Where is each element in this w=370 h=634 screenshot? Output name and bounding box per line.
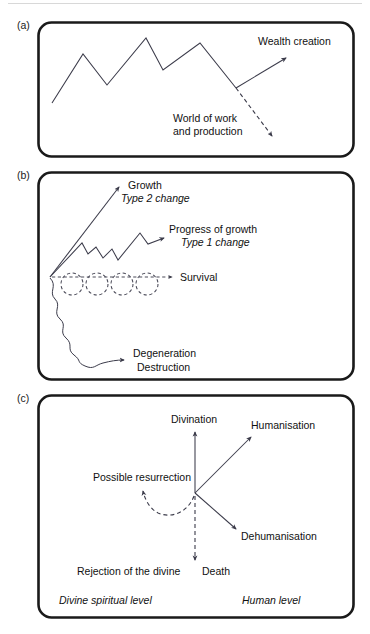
- label-type2-change: Type 2 change: [121, 192, 190, 204]
- panel-c-tag: (c): [17, 392, 29, 404]
- figure-page: (a) Wealth creation World of work and pr…: [0, 0, 370, 634]
- label-survival: Survival: [180, 271, 217, 283]
- label-human-level: Human level: [242, 594, 301, 606]
- panel-a: (a) Wealth creation World of work and pr…: [17, 19, 354, 157]
- label-progress-of-growth: Progress of growth: [169, 223, 257, 235]
- label-death: Death: [202, 565, 230, 577]
- figure-canvas: (a) Wealth creation World of work and pr…: [0, 0, 370, 634]
- label-wealth-creation: Wealth creation: [258, 35, 331, 47]
- label-world-of-work-line2: and production: [173, 125, 243, 137]
- label-divination: Divination: [171, 413, 217, 425]
- label-humanisation: Humanisation: [251, 419, 315, 431]
- label-world-of-work-line1: World of work: [173, 112, 238, 124]
- label-divine-spiritual-level: Divine spiritual level: [59, 594, 152, 606]
- label-growth: Growth: [128, 179, 162, 191]
- panel-a-tag: (a): [17, 19, 30, 31]
- label-possible-resurrection: Possible resurrection: [93, 471, 191, 483]
- label-rejection-of-the-divine: Rejection of the divine: [77, 565, 180, 577]
- label-dehumanisation: Dehumanisation: [241, 530, 317, 542]
- panel-b-tag: (b): [17, 169, 30, 181]
- panel-b: (b) Growth Type 2 change: [17, 169, 354, 380]
- label-destruction: Destruction: [137, 361, 190, 373]
- label-degeneration: Degeneration: [133, 347, 196, 359]
- panel-c: (c) Divination Humanisation Possible res…: [17, 392, 354, 618]
- label-type1-change: Type 1 change: [181, 236, 250, 248]
